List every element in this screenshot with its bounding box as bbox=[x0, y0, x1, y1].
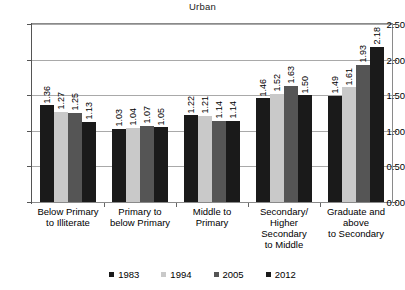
y-axis-line bbox=[31, 23, 32, 204]
bar[interactable]: 1.36 bbox=[40, 105, 54, 202]
bar-value-label: 1.49 bbox=[330, 76, 340, 94]
chart-container: Urban 1.361.271.251.131.031.041.071.051.… bbox=[0, 0, 405, 290]
bar-value-label: 1.13 bbox=[84, 102, 94, 120]
bar-value-label: 1.07 bbox=[142, 106, 152, 124]
bar-group: 1.491.611.932.18 bbox=[328, 23, 385, 202]
y-axis-tick-mark-right bbox=[393, 95, 397, 96]
legend-item[interactable]: 1994 bbox=[161, 269, 191, 280]
legend-label: 1994 bbox=[170, 269, 191, 280]
plot-area: 1.361.271.251.131.031.041.071.051.221.21… bbox=[31, 23, 393, 203]
bar-value-label: 1.22 bbox=[186, 96, 196, 114]
y-axis-tick-label: 0.50 bbox=[377, 161, 405, 172]
bar[interactable]: 1.04 bbox=[126, 128, 140, 202]
bar-value-label: 1.50 bbox=[300, 76, 310, 94]
bar-value-label: 1.14 bbox=[228, 101, 238, 119]
bar[interactable]: 1.13 bbox=[82, 122, 96, 202]
y-axis-tick-label: 1.50 bbox=[377, 90, 405, 101]
bar[interactable]: 1.14 bbox=[226, 121, 240, 202]
bar[interactable]: 1.52 bbox=[270, 94, 284, 202]
bar[interactable]: 1.27 bbox=[54, 112, 68, 202]
x-axis-label-line: Graduate and bbox=[313, 206, 399, 217]
legend-label: 2005 bbox=[223, 269, 244, 280]
legend-swatch-icon bbox=[214, 272, 219, 277]
bar[interactable]: 1.03 bbox=[112, 129, 126, 202]
legend-item[interactable]: 2005 bbox=[214, 269, 244, 280]
bar-group: 1.461.521.631.50 bbox=[256, 23, 313, 202]
bar-value-label: 1.27 bbox=[56, 92, 66, 110]
x-axis-label-line: to Secondary bbox=[313, 228, 399, 239]
y-axis-tick-label: 2.00 bbox=[377, 54, 405, 65]
y-axis-tick-mark-right bbox=[393, 131, 397, 132]
legend-swatch-icon bbox=[161, 272, 166, 277]
bar[interactable]: 1.14 bbox=[212, 121, 226, 202]
y-axis-tick-mark-right bbox=[393, 166, 397, 167]
bar[interactable]: 1.07 bbox=[140, 126, 154, 202]
bar[interactable]: 1.22 bbox=[184, 115, 198, 202]
bar-group: 1.031.041.071.05 bbox=[112, 23, 169, 202]
y-axis-tick-mark-right bbox=[393, 202, 397, 203]
legend-label: 1983 bbox=[118, 269, 139, 280]
bar[interactable]: 1.93 bbox=[356, 65, 370, 202]
bar[interactable]: 1.21 bbox=[198, 116, 212, 202]
legend-item[interactable]: 2012 bbox=[266, 269, 296, 280]
chart-title: Urban bbox=[0, 1, 405, 12]
bar[interactable]: 1.61 bbox=[342, 87, 356, 202]
bar-group: 1.361.271.251.13 bbox=[40, 23, 97, 202]
legend-item[interactable]: 1983 bbox=[109, 269, 139, 280]
y-axis-tick-label: 1.00 bbox=[377, 125, 405, 136]
bar-value-label: 1.21 bbox=[200, 96, 210, 114]
bar-value-label: 1.61 bbox=[344, 68, 354, 86]
bar-value-label: 1.25 bbox=[70, 93, 80, 111]
x-axis-label-line: to Middle bbox=[241, 239, 327, 250]
legend-swatch-icon bbox=[109, 272, 114, 277]
bar-value-label: 1.03 bbox=[114, 109, 124, 127]
bar[interactable]: 1.25 bbox=[68, 113, 82, 202]
chart-legend: 1983199420052012 bbox=[0, 269, 405, 280]
x-axis-label-line: above bbox=[313, 217, 399, 228]
bar-value-label: 1.04 bbox=[128, 108, 138, 126]
bar[interactable]: 1.63 bbox=[284, 86, 298, 202]
bar[interactable]: 1.46 bbox=[256, 98, 270, 202]
x-axis-category-label: Graduate andaboveto Secondary bbox=[313, 206, 399, 239]
bar-value-label: 1.05 bbox=[156, 108, 166, 126]
y-axis-tick-label: 2.50 bbox=[377, 19, 405, 30]
bars-layer: 1.361.271.251.131.031.041.071.051.221.21… bbox=[32, 24, 392, 202]
y-axis-tick-mark-right bbox=[393, 24, 397, 25]
bar-value-label: 1.46 bbox=[258, 79, 268, 97]
bar-group: 1.221.211.141.14 bbox=[184, 23, 241, 202]
legend-swatch-icon bbox=[266, 272, 271, 277]
bar[interactable]: 1.49 bbox=[328, 96, 342, 202]
bar-value-label: 1.36 bbox=[42, 86, 52, 104]
bar-value-label: 1.14 bbox=[214, 101, 224, 119]
bar[interactable]: 1.05 bbox=[154, 127, 168, 202]
bar-value-label: 1.93 bbox=[358, 45, 368, 63]
bar-value-label: 1.63 bbox=[286, 66, 296, 84]
y-axis-tick-mark-right bbox=[393, 60, 397, 61]
legend-label: 2012 bbox=[275, 269, 296, 280]
bar-value-label: 2.18 bbox=[372, 27, 382, 45]
bar-value-label: 1.52 bbox=[272, 74, 282, 92]
bar[interactable]: 1.50 bbox=[298, 95, 312, 202]
